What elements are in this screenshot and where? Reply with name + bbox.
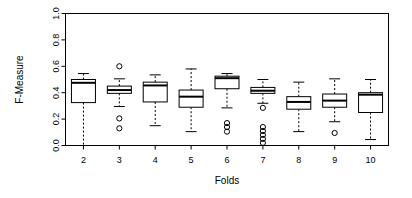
x-axis-tick-label: 10	[366, 155, 376, 165]
x-axis-tick-label: 4	[153, 155, 158, 165]
y-axis-tick-label: 0.0	[51, 139, 61, 152]
y-axis-tick-label: 0.6	[51, 60, 61, 73]
x-axis-tick-label: 7	[260, 155, 265, 165]
y-axis-tick-label: 0.4	[51, 86, 61, 99]
x-axis-tick-label: 8	[296, 155, 301, 165]
boxplot-figure: 0.00.20.40.60.81.0F-Measure2345678910Fol…	[0, 0, 412, 198]
y-axis-tick-label: 1.0	[51, 7, 61, 20]
y-axis-tick-label: 0.2	[51, 113, 61, 126]
x-axis-tick-label: 9	[332, 155, 337, 165]
x-axis-title: Folds	[215, 175, 239, 186]
x-axis-tick-label: 2	[81, 155, 86, 165]
y-axis-tick-label: 0.8	[51, 34, 61, 47]
x-axis-tick-label: 3	[117, 155, 122, 165]
box-iqr	[179, 90, 203, 107]
chart-background	[0, 0, 412, 198]
y-axis-title: F-Measure	[14, 55, 25, 104]
x-axis-tick-label: 5	[189, 155, 194, 165]
x-axis-tick-label: 6	[224, 155, 229, 165]
